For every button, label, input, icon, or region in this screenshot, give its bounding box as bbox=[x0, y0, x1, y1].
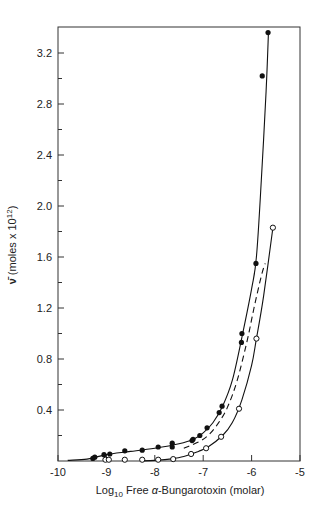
y-tick-label: 1.6 bbox=[37, 251, 52, 263]
data-point-filled bbox=[239, 331, 244, 336]
y-axis-title: ν̄ (moles x 1012) bbox=[5, 206, 18, 285]
y-tick-label: 0.8 bbox=[37, 353, 52, 365]
data-point-filled bbox=[101, 452, 106, 457]
chart: 0.40.81.21.62.02.42.83.2 -10-9-8-7-6-5 L… bbox=[0, 0, 318, 517]
data-point-filled bbox=[217, 410, 222, 415]
data-point-open bbox=[189, 451, 194, 456]
x-tick-label: -7 bbox=[198, 466, 208, 478]
data-point-open bbox=[219, 434, 224, 439]
data-point-open bbox=[156, 457, 161, 462]
data-point-filled bbox=[122, 448, 127, 453]
data-point-open bbox=[106, 457, 111, 462]
data-point-filled bbox=[92, 455, 97, 460]
data-point-filled bbox=[197, 433, 202, 438]
y-axis-ticks: 0.40.81.21.62.02.42.83.2 bbox=[37, 47, 64, 436]
y-tick-label: 1.2 bbox=[37, 302, 52, 314]
data-point-filled bbox=[190, 437, 195, 442]
data-point-filled bbox=[265, 30, 270, 35]
y-tick-label: 2.0 bbox=[37, 200, 52, 212]
data-point-filled bbox=[170, 444, 175, 449]
data-point-open bbox=[140, 457, 145, 462]
data-point-filled bbox=[239, 340, 244, 345]
data-point-filled bbox=[156, 444, 161, 449]
x-tick-label: -6 bbox=[247, 466, 257, 478]
data-point-open bbox=[254, 336, 259, 341]
x-tick-label: -5 bbox=[295, 466, 305, 478]
curve-dashed-curve bbox=[184, 263, 265, 448]
data-point-open bbox=[171, 456, 176, 461]
data-point-open bbox=[204, 446, 209, 451]
data-point-filled bbox=[253, 261, 258, 266]
data-point-open bbox=[122, 457, 127, 462]
data-markers bbox=[90, 30, 275, 462]
data-point-open bbox=[236, 406, 241, 411]
data-point-filled bbox=[107, 451, 112, 456]
data-point-open bbox=[270, 225, 275, 230]
x-tick-label: -8 bbox=[150, 466, 160, 478]
x-tick-label: -9 bbox=[102, 466, 112, 478]
x-axis-title: Log10 Free α-Bungarotoxin (molar) bbox=[96, 484, 265, 499]
x-tick-label: -10 bbox=[50, 466, 66, 478]
curve-filled-circles bbox=[68, 31, 269, 460]
y-tick-label: 3.2 bbox=[37, 47, 52, 59]
plot-frame bbox=[58, 27, 300, 461]
y-tick-label: 2.4 bbox=[37, 149, 52, 161]
data-point-filled bbox=[204, 425, 209, 430]
data-point-filled bbox=[219, 404, 224, 409]
data-point-filled bbox=[260, 73, 265, 78]
y-tick-label: 2.8 bbox=[37, 98, 52, 110]
data-curves bbox=[68, 31, 273, 461]
y-tick-label: 0.4 bbox=[37, 404, 52, 416]
data-point-filled bbox=[140, 448, 145, 453]
